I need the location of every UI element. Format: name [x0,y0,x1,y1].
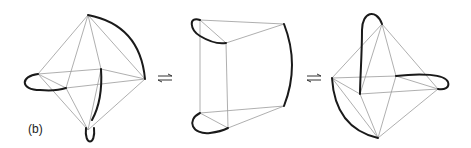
diagram-canvas [0,0,471,148]
octahedron-right [332,14,448,138]
prism-middle [192,19,292,133]
equilibrium-arrow-2 [307,74,321,82]
equilibrium-arrow-1 [158,74,172,82]
figure-label: (b) [28,122,43,136]
octahedron-left [25,15,145,142]
